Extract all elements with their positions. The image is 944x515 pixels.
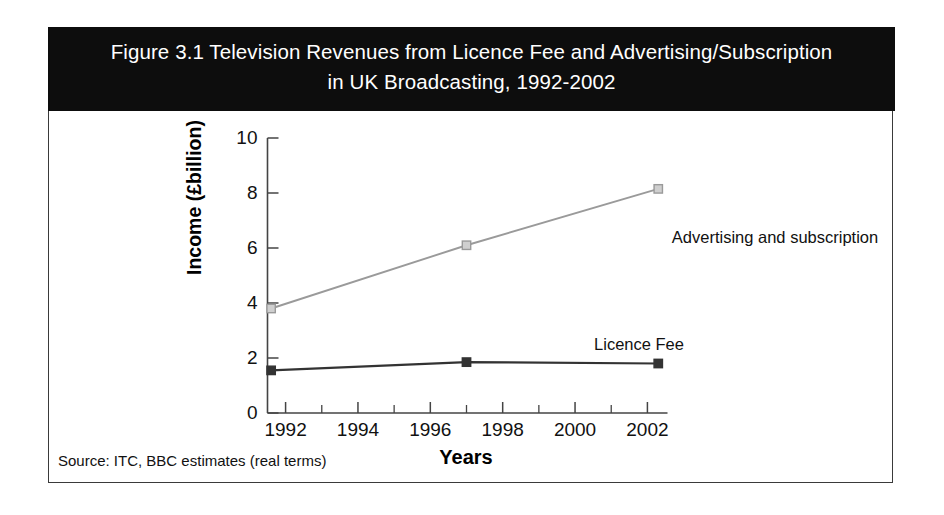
- x-tick-label: 1992: [264, 419, 306, 441]
- figure-title-line-2: in UK Broadcasting, 1992-2002: [328, 67, 616, 97]
- y-tick-label: 8: [210, 182, 258, 204]
- y-tick-label: 10: [210, 127, 258, 149]
- figure-container: Figure 3.1 Television Revenues from Lice…: [0, 0, 944, 515]
- x-tick-label: 2002: [626, 419, 668, 441]
- source-note: Source: ITC, BBC estimates (real terms): [58, 452, 326, 469]
- y-axis-title: Income (£billion): [183, 120, 206, 275]
- x-tick-label: 1998: [482, 419, 524, 441]
- y-tick-label: 6: [210, 237, 258, 259]
- y-tick-label: 0: [210, 402, 258, 424]
- x-tick-label: 1994: [337, 419, 379, 441]
- figure-title-banner: Figure 3.1 Television Revenues from Lice…: [48, 27, 895, 111]
- y-tick-label: 4: [210, 292, 258, 314]
- series-label-advertising: Advertising and subscription: [672, 228, 878, 247]
- series-label-licence: Licence Fee: [594, 335, 684, 354]
- y-tick-label: 2: [210, 347, 258, 369]
- x-tick-label: 2000: [554, 419, 596, 441]
- figure-title-line-1: Figure 3.1 Television Revenues from Lice…: [111, 37, 833, 67]
- x-tick-label: 1996: [409, 419, 451, 441]
- x-axis-title: Years: [439, 446, 492, 469]
- chart-frame: [48, 111, 893, 483]
